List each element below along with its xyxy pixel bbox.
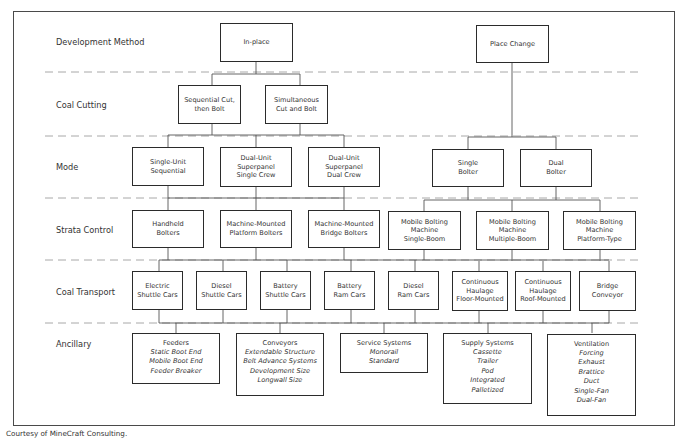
row-label-strata-control: Strata Control	[56, 225, 113, 235]
node-item: Exhaust	[578, 358, 605, 367]
node-text: Dual-Unit	[241, 154, 272, 163]
node-item: Forcing	[579, 349, 603, 358]
node-item: Development Size	[250, 367, 310, 376]
node-battery-ram-cars: Battery Ram Cars	[324, 271, 375, 310]
node-text: Mobile Bolting	[576, 218, 623, 227]
node-item: Static Boot End	[151, 348, 202, 357]
node-bridge-conveyor: Bridge Conveyor	[579, 271, 636, 311]
node-dual-bolter: Dual Bolter	[520, 149, 592, 187]
node-text: Machine-Mounted	[227, 220, 286, 229]
node-text: Single Crew	[237, 171, 276, 180]
node-in-place: In-place	[220, 23, 293, 62]
node-mobile-platform-type: Mobile Bolting Machine Platform-Type	[563, 211, 636, 250]
node-dual-unit-dual-crew: Dual-Unit Superpanel Dual Crew	[308, 147, 380, 187]
node-item: Single-Fan	[574, 387, 609, 396]
node-text: Superpanel	[325, 163, 363, 172]
node-text: Mobile Bolting	[401, 218, 448, 227]
node-text: then Bolt	[194, 105, 224, 114]
credit-caption: Courtesy of MineCraft Consulting.	[6, 429, 127, 438]
node-item: Standard	[369, 357, 399, 366]
node-text: Ram Cars	[334, 291, 366, 300]
node-item: Feeder Breaker	[151, 367, 202, 376]
node-text: In-place	[243, 38, 269, 47]
node-feeders: Feeders Static Boot End Mobile Boot End …	[132, 333, 220, 384]
node-text: Bolter	[458, 168, 478, 177]
node-item: Integrated	[470, 376, 505, 385]
node-text: Ram Cars	[398, 291, 430, 300]
node-diesel-ram-cars: Diesel Ram Cars	[388, 271, 439, 310]
node-mobile-single-boom: Mobile Bolting Machine Single-Boom	[388, 211, 461, 250]
node-simultaneous-cut: Simultaneous Cut and Bolt	[265, 85, 328, 124]
node-text: Bridge	[597, 282, 619, 291]
node-single-bolter: Single Bolter	[432, 149, 504, 187]
node-text: Sequential	[150, 167, 185, 176]
node-sequential-cut: Sequential Cut, then Bolt	[178, 85, 241, 124]
row-label-development-method: Development Method	[56, 37, 144, 47]
node-text: Place Change	[490, 40, 535, 49]
node-single-unit-sequential: Single-Unit Sequential	[132, 147, 204, 186]
node-haulage-floor-mounted: Continuous Haulage Floor-Mounted	[452, 271, 508, 311]
row-label-coal-cutting: Coal Cutting	[56, 100, 107, 110]
node-text: Machine	[411, 226, 439, 235]
node-heading: Feeders	[163, 338, 189, 348]
node-heading: Conveyors	[263, 338, 298, 348]
node-text: Superpanel	[237, 163, 275, 172]
node-text: Single	[458, 159, 478, 168]
node-text: Bolters	[156, 229, 179, 238]
node-heading: Supply Systems	[461, 338, 514, 348]
row-label-coal-transport: Coal Transport	[56, 287, 115, 297]
row-label-ancillary: Ancillary	[56, 339, 91, 349]
node-item: Mobile Boot End	[149, 357, 203, 366]
node-text: Diesel	[403, 282, 423, 291]
node-item: Brattice	[579, 368, 605, 377]
node-text: Platform Bolters	[229, 229, 282, 238]
node-text: Roof-Mounted	[520, 295, 566, 304]
node-text: Continuous	[524, 278, 561, 287]
node-text: Dual Crew	[327, 171, 361, 180]
node-text: Machine	[586, 226, 614, 235]
node-text: Single-Boom	[404, 235, 445, 244]
node-text: Haulage	[466, 287, 493, 296]
node-place-change: Place Change	[476, 25, 549, 63]
node-text: Single-Unit	[150, 158, 186, 167]
node-bridge-bolters: Machine-Mounted Bridge Bolters	[308, 210, 380, 248]
node-item: Longwall Size	[258, 376, 303, 385]
node-text: Dual	[548, 159, 563, 168]
node-text: Machine-Mounted	[315, 220, 374, 229]
node-battery-shuttle-cars: Battery Shuttle Cars	[260, 271, 311, 310]
node-text: Simultaneous	[274, 96, 319, 105]
node-item: Trailer	[477, 357, 498, 366]
node-text: Electric	[145, 282, 169, 291]
node-heading: Service Systems	[357, 338, 412, 348]
node-text: Platform-Type	[577, 235, 622, 244]
node-text: Multiple-Boom	[489, 235, 536, 244]
node-text: Sequential Cut,	[184, 96, 235, 105]
node-conveyors: Conveyors Extendable Structure Belt Adva…	[236, 333, 324, 396]
node-text: Bolter	[546, 168, 566, 177]
node-diesel-shuttle-cars: Diesel Shuttle Cars	[196, 271, 247, 310]
node-item: Duct	[584, 377, 599, 386]
node-supply-systems: Supply Systems Cassette Trailer Pod Inte…	[443, 333, 532, 404]
node-mobile-multiple-boom: Mobile Bolting Machine Multiple-Boom	[476, 211, 549, 250]
node-item: Palletized	[472, 386, 504, 395]
node-item: Monorail	[370, 348, 398, 357]
node-dual-unit-single-crew: Dual-Unit Superpanel Single Crew	[220, 147, 292, 187]
node-haulage-roof-mounted: Continuous Haulage Roof-Mounted	[515, 271, 571, 311]
node-item: Belt Advance Systems	[243, 357, 317, 366]
node-text: Mobile Bolting	[489, 218, 536, 227]
node-item: Dual-Fan	[577, 396, 607, 405]
node-text: Handheld	[152, 220, 184, 229]
node-text: Floor-Mounted	[456, 295, 503, 304]
node-text: Shuttle Cars	[201, 291, 242, 300]
node-platform-bolters: Machine-Mounted Platform Bolters	[220, 210, 292, 248]
node-text: Shuttle Cars	[265, 291, 306, 300]
node-text: Haulage	[529, 287, 556, 296]
node-electric-shuttle-cars: Electric Shuttle Cars	[132, 271, 183, 310]
node-text: Cut and Bolt	[276, 105, 317, 114]
node-text: Dual-Unit	[329, 154, 360, 163]
node-text: Battery	[273, 282, 297, 291]
node-service-systems: Service Systems Monorail Standard	[340, 333, 428, 373]
node-text: Battery	[337, 282, 361, 291]
node-text: Machine	[499, 226, 527, 235]
node-text: Bridge Bolters	[321, 229, 368, 238]
